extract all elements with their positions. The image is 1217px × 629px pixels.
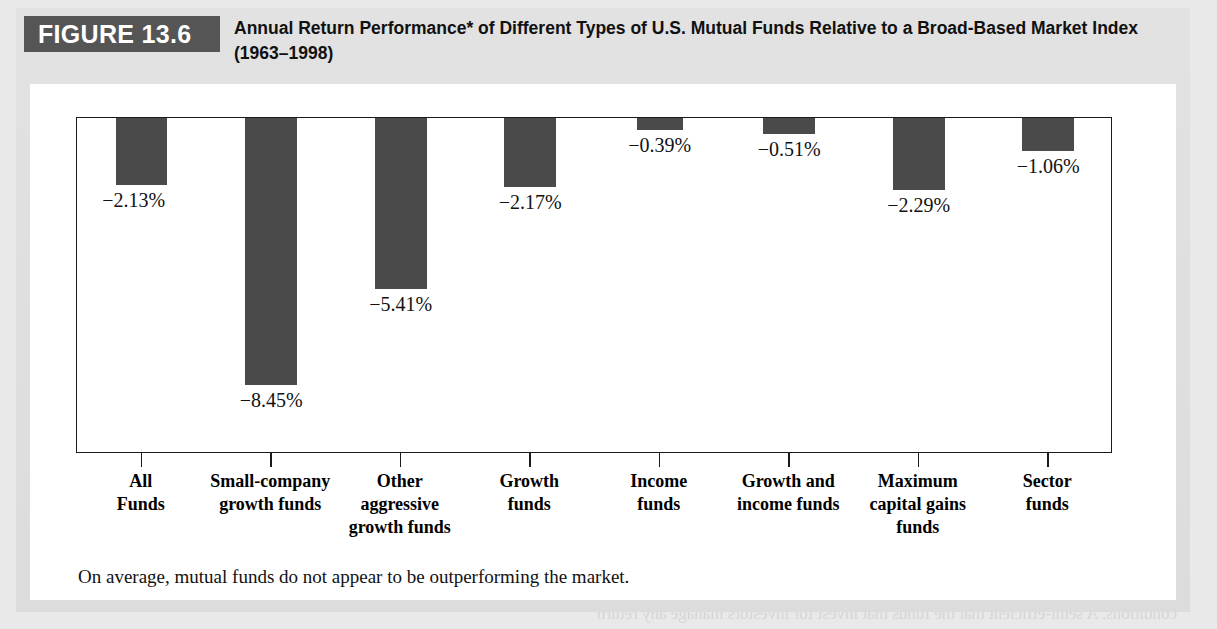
bar-chart-plot-area: −2.13%−8.45%−5.41%−2.17%−0.39%−0.51%−2.2… [76,117,1112,453]
x-axis-tick [141,453,143,467]
bar-value-label: −0.51% [758,138,821,161]
bar [893,118,945,190]
x-axis-tick [788,453,790,467]
figure-title: Annual Return Performance* of Different … [234,16,1164,66]
x-axis-tick [270,453,272,467]
bar-value-label: −5.41% [369,293,432,316]
figure-number-badge: FIGURE 13.6 [24,16,220,52]
bar-value-label: −2.29% [887,194,950,217]
bar [375,118,427,289]
x-axis-category-label: Sectorfunds [969,470,1127,516]
x-axis-tick [1047,453,1049,467]
figure-block: FIGURE 13.6 Annual Return Performance* o… [16,8,1190,612]
bar [763,118,815,134]
x-axis-tick [529,453,531,467]
bar-value-label: −1.06% [1017,155,1080,178]
figure-number-label: FIGURE 13.6 [38,20,191,49]
x-axis-tick [918,453,920,467]
x-axis-tick [400,453,402,467]
bar [116,118,167,185]
x-axis-tick-marks [76,453,1112,467]
figure-caption: On average, mutual funds do not appear t… [78,566,1128,588]
bar-value-label: −2.17% [499,191,562,214]
bar-value-label: −2.13% [102,189,165,212]
bar-value-label: −0.39% [628,134,691,157]
bar [1022,118,1074,151]
x-axis-tick [659,453,661,467]
bar [637,118,683,130]
figure-panel: −2.13%−8.45%−5.41%−2.17%−0.39%−0.51%−2.2… [30,84,1176,600]
figure-header: FIGURE 13.6 Annual Return Performance* o… [16,8,1190,78]
bar-value-label: −8.45% [240,389,303,412]
bar [504,118,556,187]
bar [245,118,297,385]
x-axis-category-labels: AllFundsSmall-companygrowth fundsOtherag… [76,470,1112,560]
